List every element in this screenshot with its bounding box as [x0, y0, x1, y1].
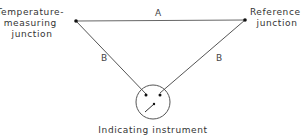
- wire-a-label: A: [155, 8, 162, 18]
- measuring-junction-dot: [74, 19, 78, 23]
- wire-b-left: [76, 21, 146, 94]
- measuring-junction-label: Temperature- measuring junction: [0, 7, 67, 39]
- wire-b-right: [160, 20, 245, 93]
- wire-b-left-label: B: [101, 53, 107, 63]
- instrument-label: Indicating instrument: [98, 125, 207, 135]
- indicating-instrument-icon: [136, 85, 170, 119]
- reference-junction-label: Reference junction: [250, 7, 304, 28]
- thermocouple-diagram: Temperature- measuring junction Referenc…: [0, 0, 308, 137]
- reference-junction-dot: [243, 18, 247, 22]
- wire-a: [76, 20, 245, 21]
- wire-b-right-label: B: [216, 53, 222, 63]
